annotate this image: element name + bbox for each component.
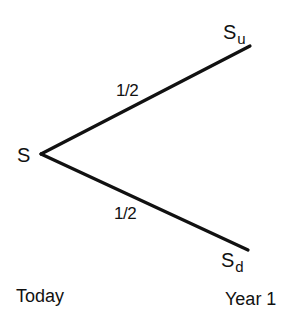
down-branch-line	[41, 154, 248, 250]
up-node-base: S	[223, 21, 236, 43]
up-node-label: Su	[223, 22, 246, 42]
root-node-label: S	[17, 145, 30, 165]
tree-branches	[0, 0, 306, 324]
down-node-subscript: d	[235, 258, 243, 275]
time-label-year-1: Year 1	[225, 290, 276, 308]
up-branch-line	[41, 46, 250, 154]
time-label-today: Today	[16, 287, 64, 305]
down-probability-label: 1/2	[114, 205, 136, 222]
binomial-tree-diagram: S Su Sd 1/2 1/2 Today Year 1	[0, 0, 306, 324]
down-node-label: Sd	[221, 250, 244, 270]
up-node-subscript: u	[237, 30, 245, 47]
up-probability-label: 1/2	[116, 82, 138, 99]
down-node-base: S	[221, 249, 234, 271]
